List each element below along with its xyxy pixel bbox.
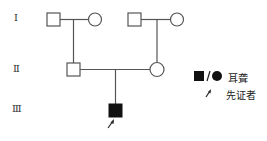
individual-II-1-male bbox=[67, 63, 80, 76]
individual-I-2-female bbox=[89, 13, 102, 26]
individual-I-1-male bbox=[47, 13, 60, 26]
proband-arrow-icon bbox=[108, 119, 114, 128]
legend-affected-circle-icon bbox=[212, 71, 222, 81]
pedigree-chart bbox=[0, 0, 267, 141]
legend-affected-square-icon bbox=[194, 71, 204, 81]
individual-III-1-affected-male bbox=[109, 104, 122, 117]
individual-II-2-female bbox=[150, 63, 164, 77]
legend-proband-label: 先证者 bbox=[226, 87, 256, 102]
individual-I-3-male bbox=[128, 13, 141, 26]
individual-I-4-female bbox=[171, 13, 184, 26]
legend-slash bbox=[207, 71, 210, 81]
legend-proband-arrow-icon bbox=[206, 89, 211, 97]
legend-affected-label: 耳聋 bbox=[228, 70, 248, 85]
